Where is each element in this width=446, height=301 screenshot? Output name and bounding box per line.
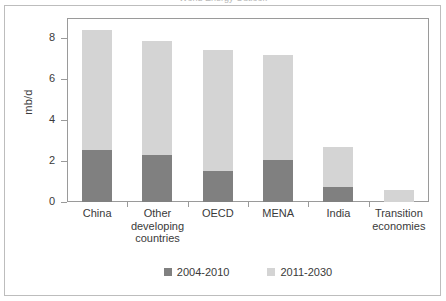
legend-swatch-icon xyxy=(267,268,275,276)
bar-segment-2004-2010[interactable] xyxy=(82,150,112,202)
legend-swatch-icon xyxy=(164,268,172,276)
x-axis-category-label: India xyxy=(308,207,368,220)
bar-segment-2004-2010[interactable] xyxy=(142,155,172,202)
bar-stack[interactable] xyxy=(323,147,353,202)
bar-segment-2011-2030[interactable] xyxy=(142,41,172,155)
chart-figure: World Energy Outlook mb/d 02468 ChinaOth… xyxy=(0,0,446,301)
bar-stack[interactable] xyxy=(203,50,233,202)
bar-stack[interactable] xyxy=(142,41,172,203)
y-tick: 0 xyxy=(0,202,67,203)
y-tick-label: 8 xyxy=(49,30,55,44)
y-tick-label: 4 xyxy=(49,112,55,126)
legend-item[interactable]: 2004-2010 xyxy=(164,266,230,278)
bar-segment-2011-2030[interactable] xyxy=(323,147,353,187)
y-tick: 6 xyxy=(0,79,67,80)
bar-stack[interactable] xyxy=(384,190,414,202)
cropped-title-strip: World Energy Outlook xyxy=(0,0,446,4)
bar-slot xyxy=(308,18,368,202)
legend-label: 2011-2030 xyxy=(280,266,332,278)
bar-slot xyxy=(127,18,187,202)
y-tick-label: 6 xyxy=(49,71,55,85)
bar-slot xyxy=(67,18,127,202)
bar-segment-2004-2010[interactable] xyxy=(203,171,233,202)
bar-slot xyxy=(188,18,248,202)
bar-segment-2011-2030[interactable] xyxy=(263,55,293,160)
bar-segment-2011-2030[interactable] xyxy=(82,30,112,150)
bars-layer xyxy=(67,18,429,202)
bar-stack[interactable] xyxy=(263,55,293,202)
bar-segment-2011-2030[interactable] xyxy=(203,50,233,172)
bar-segment-2004-2010[interactable] xyxy=(263,160,293,202)
y-tick-label: 2 xyxy=(49,153,55,167)
chart-legend: 2004-20102011-2030 xyxy=(67,264,429,280)
legend-item[interactable]: 2011-2030 xyxy=(267,266,332,278)
legend-label: 2004-2010 xyxy=(177,266,230,278)
y-tick: 8 xyxy=(0,38,67,39)
x-axis-labels: ChinaOtherdevelopingcountriesOECDMENAInd… xyxy=(67,207,429,255)
x-axis-category-label: Transitioneconomies xyxy=(369,207,429,232)
bar-slot xyxy=(248,18,308,202)
y-tick: 2 xyxy=(0,161,67,162)
bar-segment-2011-2030[interactable] xyxy=(384,190,414,202)
y-axis-label: mb/d xyxy=(22,72,34,132)
bar-segment-2004-2010[interactable] xyxy=(323,187,353,202)
bar-stack[interactable] xyxy=(82,30,112,202)
y-tick-mark xyxy=(61,202,67,203)
bar-slot xyxy=(369,18,429,202)
x-axis-category-label: MENA xyxy=(248,207,308,220)
x-axis-category-label: China xyxy=(67,207,127,220)
y-tick: 4 xyxy=(0,120,67,121)
y-tick-label: 0 xyxy=(49,194,55,208)
figure-title: World Energy Outlook xyxy=(0,0,446,3)
x-axis-category-label: Otherdevelopingcountries xyxy=(127,207,187,245)
x-axis-category-label: OECD xyxy=(188,207,248,220)
